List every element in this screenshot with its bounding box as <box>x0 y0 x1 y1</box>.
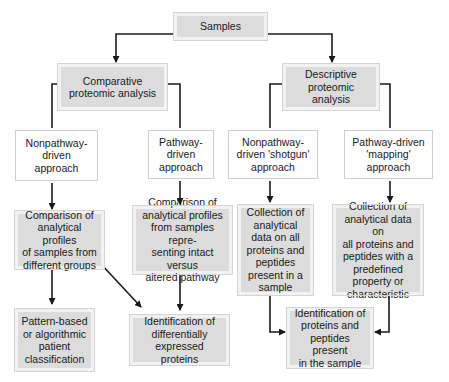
samples-box: Samples <box>174 13 267 40</box>
comparative-pathway-label: Pathway- driven approach <box>159 136 203 174</box>
descriptive-shotgun-label: Nonpathway- driven 'shotgun' approach <box>237 136 310 174</box>
comparative-pathway-box: Pathway- driven approach <box>148 130 214 179</box>
descriptive-analysis-label: Descriptive proteomic analysis <box>289 68 373 106</box>
comparative-nonpathway-box: Nonpathway- driven approach <box>15 130 98 181</box>
collection-all-box: Collection of analytical data on all pro… <box>238 205 313 295</box>
collection-predefined-label: Collection of analytical data on all pro… <box>339 200 417 300</box>
pattern-classification-label: Pattern-based or algorithmic patient cla… <box>22 315 88 365</box>
descriptive-mapping-label: Pathway-driven 'mapping' approach <box>352 136 424 174</box>
comparison-pathway-box: Comparison of analytical profiles from s… <box>133 206 232 274</box>
comparative-analysis-label: Comparative proteomic analysis <box>69 75 156 100</box>
collection-all-label: Collection of analytical data on all pro… <box>247 206 305 294</box>
identification-proteins-box: Identification of proteins and peptides … <box>287 308 373 368</box>
comparison-groups-label: Comparison of analytical profiles of sam… <box>21 209 98 272</box>
descriptive-analysis-box: Descriptive proteomic analysis <box>283 64 379 110</box>
samples-label: Samples <box>200 20 241 33</box>
descriptive-mapping-box: Pathway-driven 'mapping' approach <box>344 130 433 179</box>
identification-differential-box: Identification of differentially express… <box>130 315 229 365</box>
collection-predefined-box: Collection of analytical data on all pro… <box>333 205 423 295</box>
comparison-groups-box: Comparison of analytical profiles of sam… <box>15 211 104 269</box>
identification-differential-label: Identification of differentially express… <box>136 315 223 365</box>
comparison-pathway-label: Comparison of analytical profiles from s… <box>139 196 226 284</box>
pattern-classification-box: Pattern-based or algorithmic patient cla… <box>15 309 94 371</box>
descriptive-shotgun-box: Nonpathway- driven 'shotgun' approach <box>228 130 318 179</box>
comparative-analysis-box: Comparative proteomic analysis <box>58 64 167 110</box>
comparative-nonpathway-label: Nonpathway- driven approach <box>26 137 88 175</box>
identification-proteins-label: Identification of proteins and peptides … <box>293 307 367 370</box>
